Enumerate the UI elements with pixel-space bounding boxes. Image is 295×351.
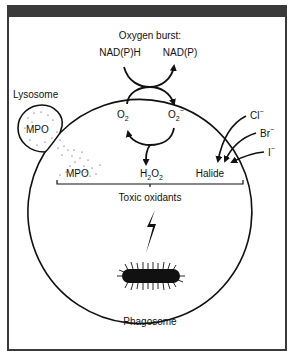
nadph-label: NAD(P)H (99, 47, 141, 58)
halide-label: Halide (196, 168, 225, 179)
oxygen-burst-arrows (124, 66, 174, 104)
phagosome-label: Phagosome (123, 316, 177, 327)
bacterium-icon (117, 262, 185, 290)
lysosome-mpo-label: MPO (26, 124, 49, 135)
o2-label: O2 (117, 109, 129, 122)
nadp-label: NAD(P) (163, 47, 197, 58)
phagosome-membrane (18, 99, 252, 323)
dismutation-arrows (128, 128, 174, 164)
lightning-bolt-icon (146, 210, 156, 253)
bromide-label: Br− (260, 126, 274, 139)
iodide-label: I− (268, 145, 275, 158)
mpo-label: MPO (66, 168, 89, 179)
chloride-label: Cl− (250, 108, 264, 121)
superoxide-label: O2− (168, 107, 184, 122)
h2o2-label: H2O2 (140, 168, 163, 181)
halide-arrows (218, 116, 264, 162)
toxic-oxidants-bracket (57, 180, 243, 187)
toxic-oxidants-label: Toxic oxidants (119, 192, 182, 203)
lysosome-label: Lysosome (13, 89, 59, 100)
oxygen-burst-title: Oxygen burst: (119, 30, 181, 41)
